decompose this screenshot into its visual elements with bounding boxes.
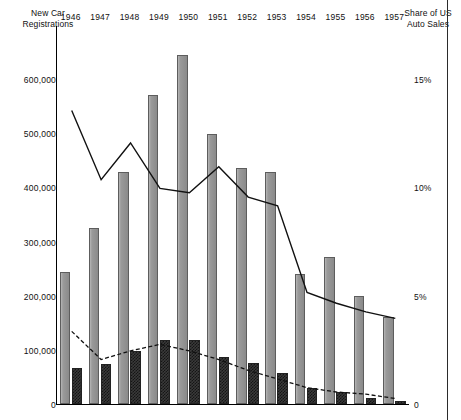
- right-axis-ticks: 15%10%5%0: [414, 0, 461, 420]
- frame-right-edge: [447, 0, 448, 420]
- share-line-dashed: [72, 331, 396, 398]
- x-axis-label-1951: 1951: [203, 12, 233, 22]
- right-tick-label: 5%: [414, 292, 461, 302]
- x-axis-label-1955: 1955: [320, 12, 350, 22]
- left-tick-label: 600,000: [0, 75, 56, 85]
- share-line-solid: [72, 110, 396, 318]
- left-tick-label: 300,000: [0, 238, 56, 248]
- left-tick-label: 400,000: [0, 183, 56, 193]
- x-axis-label-1954: 1954: [291, 12, 321, 22]
- plot-area: [56, 26, 409, 405]
- x-axis-label-1952: 1952: [232, 12, 262, 22]
- right-tick-label: 0: [414, 400, 461, 410]
- left-axis-ticks: 600,000500,000400,000300,000200,000100,0…: [0, 0, 56, 420]
- x-axis-label-1949: 1949: [144, 12, 174, 22]
- x-axis-label-1948: 1948: [115, 12, 145, 22]
- x-axis-label-1946: 1946: [56, 12, 86, 22]
- x-axis-label-1956: 1956: [350, 12, 380, 22]
- x-axis-label-1953: 1953: [262, 12, 292, 22]
- left-tick-label: 500,000: [0, 129, 56, 139]
- left-tick-label: 200,000: [0, 292, 56, 302]
- lines-layer: [57, 26, 410, 405]
- left-tick-label: 0: [0, 400, 56, 410]
- x-axis-label-1947: 1947: [85, 12, 115, 22]
- x-axis-label-1957: 1957: [379, 12, 409, 22]
- right-tick-label: 15%: [414, 75, 461, 85]
- x-axis-label-1950: 1950: [173, 12, 203, 22]
- left-tick-label: 100,000: [0, 346, 56, 356]
- chart-container: New Car Registrations Share of US Auto S…: [0, 0, 461, 420]
- right-tick-label: 10%: [414, 183, 461, 193]
